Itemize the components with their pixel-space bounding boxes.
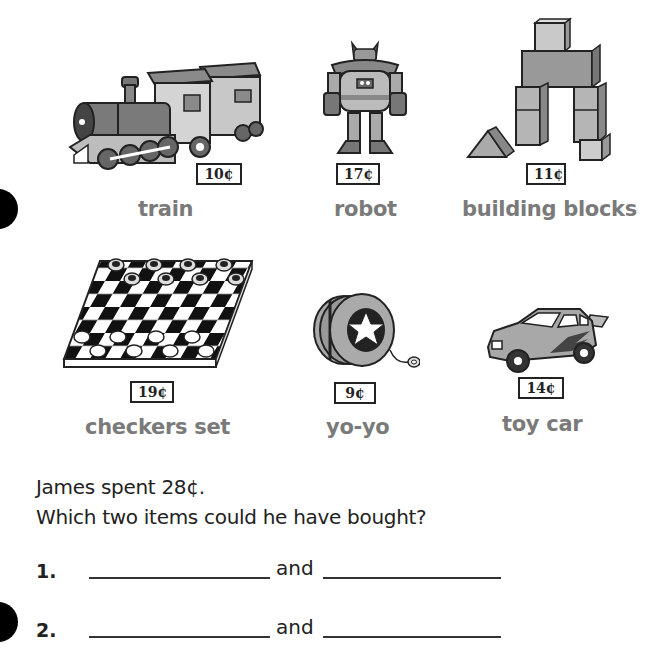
- item-yo-yo: 9¢ yo-yo: [310, 290, 420, 450]
- item-name: yo-yo: [326, 415, 389, 439]
- item-name: checkers set: [85, 415, 230, 439]
- answer-blank-1a[interactable]: [89, 577, 270, 579]
- price-tag: 19¢: [130, 381, 174, 403]
- answer-blank-1b[interactable]: [323, 577, 501, 579]
- price-tag: 14¢: [518, 377, 564, 399]
- item-name: toy car: [502, 412, 582, 436]
- item-name: train: [138, 197, 193, 221]
- problem-question: Which two items could he have bought?: [36, 505, 426, 529]
- item-toy-car: 14¢ toy car: [480, 295, 620, 450]
- robot-icon: [310, 35, 420, 155]
- and-connector: and: [276, 556, 314, 580]
- answer-number: 2.: [36, 619, 56, 641]
- price-tag: 11¢: [526, 163, 566, 185]
- item-building-blocks: 11¢ building blocks: [460, 15, 630, 225]
- item-train: 10¢ train: [60, 55, 270, 225]
- problem-statement: James spent 28¢.: [36, 475, 205, 499]
- punch-hole: [0, 189, 18, 229]
- answer-row-2: 2. and: [36, 615, 516, 645]
- answer-blank-2b[interactable]: [323, 636, 501, 638]
- yo-yo-icon: [310, 290, 420, 380]
- checkers-set-icon: [60, 255, 260, 370]
- answer-number: 1.: [36, 560, 56, 582]
- price-tag: 10¢: [196, 163, 242, 185]
- answer-row-1: 1. and: [36, 556, 516, 586]
- punch-hole: [0, 602, 18, 642]
- and-connector: and: [276, 615, 314, 639]
- price-tag: 17¢: [336, 163, 380, 185]
- item-name: robot: [334, 197, 397, 221]
- item-checkers-set: 19¢ checkers set: [60, 255, 260, 445]
- answer-blank-2a[interactable]: [89, 636, 270, 638]
- item-name: building blocks: [462, 197, 637, 221]
- train-icon: [60, 55, 270, 175]
- building-blocks-icon: [460, 15, 630, 165]
- item-robot: 17¢ robot: [310, 35, 420, 225]
- toy-car-icon: [480, 295, 620, 375]
- price-tag: 9¢: [334, 382, 376, 404]
